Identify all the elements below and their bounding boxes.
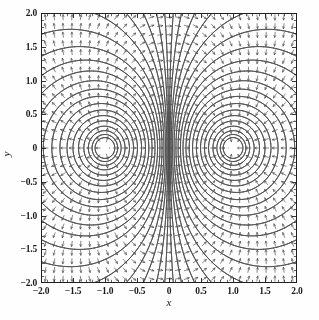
figure-panel: −2.0−1.5−1.0−0.500.51.01.52.0 −2.0−1.5−1… [0,0,319,320]
x-axis-title: x [167,296,172,308]
x-tick-label: 2.0 [291,286,302,296]
y-tick-label: −0.5 [0,177,37,187]
x-tick-label: 0 [167,286,172,296]
x-tick-label: 0.5 [195,286,206,296]
x-tick-label: 1.5 [259,286,270,296]
y-axis-title: y [0,152,12,157]
y-tick-label: 1.5 [0,42,37,52]
x-tick-label: −1.0 [97,286,114,296]
y-tick-label: 0.5 [0,109,37,119]
y-tick-label: −1.5 [0,244,37,254]
y-tick-label: 2.0 [0,8,37,18]
y-tick-label: 1.0 [0,76,37,86]
x-tick-label: 1.0 [227,286,238,296]
y-tick-label: −1.0 [0,211,37,221]
x-tick-label: −0.5 [129,286,146,296]
x-tick-label: −1.5 [65,286,82,296]
y-tick-label: −2.0 [0,278,37,288]
contour-quiver-plot-canvas [0,0,319,320]
